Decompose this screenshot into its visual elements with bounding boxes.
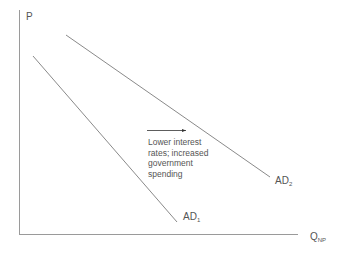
y-axis-label: P <box>26 11 33 22</box>
ad1-label-main: AD <box>183 211 197 222</box>
x-axis-label: QNP <box>310 231 326 246</box>
annotation-line: rates; increased <box>148 148 238 159</box>
annotation-line: spending <box>148 169 238 180</box>
diagram-canvas <box>0 0 345 256</box>
annotation-line: Lower interest <box>148 137 238 148</box>
ad2-label-main: AD <box>275 175 289 186</box>
x-axis-label-main: Q <box>310 231 318 242</box>
ad2-label: AD2 <box>275 175 292 190</box>
ad2-label-sub: 2 <box>289 181 292 187</box>
x-axis-label-sub: NP <box>318 237 326 243</box>
annotation-line: government <box>148 158 238 169</box>
ad1-label: AD1 <box>183 211 200 226</box>
ad1-label-sub: 1 <box>197 217 200 223</box>
shift-annotation: Lower interest rates; increased governme… <box>148 137 238 179</box>
